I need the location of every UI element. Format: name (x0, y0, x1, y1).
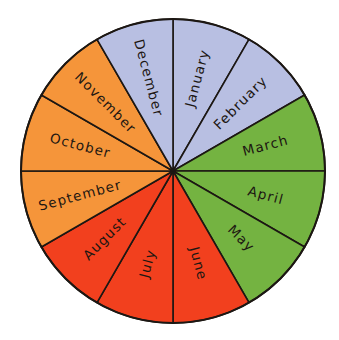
month-wedges (21, 19, 325, 323)
months-wheel-diagram: JanuaryFebruaryMarchAprilMayJuneJulyAugu… (0, 0, 339, 340)
